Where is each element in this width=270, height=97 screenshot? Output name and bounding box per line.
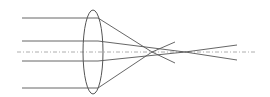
ray-inner-top: [22, 41, 237, 60]
light-rays: [22, 18, 237, 88]
ray-inner-bottom: [22, 45, 237, 61]
ray-outer-top: [22, 18, 175, 63]
diagram-canvas: [0, 0, 270, 97]
spherical-aberration-diagram: [0, 0, 270, 97]
ray-outer-bottom: [22, 42, 175, 88]
